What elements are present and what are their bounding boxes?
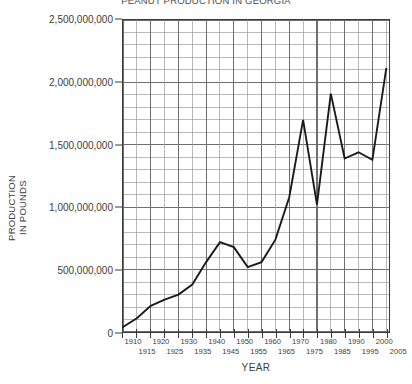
x-tick-label-2: 1920 (152, 337, 169, 346)
x-tick-label-15: 1985 (334, 347, 351, 356)
x-tick-label-7: 1945 (222, 347, 239, 356)
x-tick-mark-14 (317, 329, 318, 338)
x-tick-mark-8 (234, 329, 235, 338)
x-axis-title: YEAR (122, 362, 390, 373)
chart-title: PEANUT PRODUCTION IN GEORGIA (0, 0, 412, 6)
x-tick-label-17: 1995 (362, 347, 379, 356)
y-tick-mark-2 (115, 207, 122, 208)
y-tick-label-4: 2,000,000,000 (49, 76, 113, 87)
y-tick-label-0: 0 (107, 328, 113, 339)
x-tick-label-1: 1915 (139, 347, 156, 356)
x-tick-label-14: 1980 (320, 337, 337, 346)
x-tick-label-12: 1970 (292, 337, 309, 346)
x-tick-mark-1 (136, 329, 137, 338)
x-tick-label-19: 2005 (390, 347, 407, 356)
x-tick-label-18: 2000 (376, 337, 393, 346)
x-tick-label-13: 1975 (306, 347, 323, 356)
x-tick-label-16: 1990 (348, 337, 365, 346)
x-tick-mark-10 (262, 329, 263, 338)
y-tick-label-5: 2,500,000,000 (49, 14, 113, 25)
x-tick-mark-13 (303, 329, 304, 338)
y-tick-mark-1 (115, 270, 122, 271)
data-series-line (123, 20, 389, 332)
y-tick-mark-5 (115, 19, 122, 20)
x-tick-label-8: 1950 (236, 337, 253, 346)
x-tick-label-10: 1960 (264, 337, 281, 346)
x-tick-label-0: 1910 (125, 337, 142, 346)
y-axis-title: PRODUCTION IN POUNDS (6, 175, 32, 241)
y-axis-title-line2: IN POUNDS (17, 175, 28, 241)
x-tick-mark-7 (220, 329, 221, 338)
x-tick-mark-5 (192, 329, 193, 338)
x-tick-mark-6 (206, 329, 207, 338)
x-tick-mark-3 (164, 329, 165, 338)
x-tick-mark-17 (359, 329, 360, 338)
x-tick-label-9: 1955 (250, 347, 267, 356)
x-tick-label-6: 1940 (208, 337, 225, 346)
y-tick-mark-0 (115, 333, 122, 334)
plot-area (122, 19, 390, 333)
x-tick-mark-11 (276, 329, 277, 338)
x-tick-label-4: 1930 (180, 337, 197, 346)
x-tick-mark-19 (387, 329, 388, 338)
chart-container: PEANUT PRODUCTION IN GEORGIA PRODUCTION … (0, 0, 412, 384)
x-tick-mark-2 (150, 329, 151, 338)
y-axis: PRODUCTION IN POUNDS 0500,000,0001,000,0… (0, 0, 122, 384)
x-tick-mark-4 (178, 329, 179, 338)
y-tick-mark-3 (115, 144, 122, 145)
x-tick-label-3: 1925 (166, 347, 183, 356)
y-tick-label-1: 500,000,000 (57, 265, 113, 276)
y-tick-mark-4 (115, 81, 122, 82)
y-tick-label-2: 1,000,000,000 (49, 202, 113, 213)
x-tick-mark-16 (345, 329, 346, 338)
x-tick-label-11: 1965 (278, 347, 295, 356)
y-tick-label-3: 1,500,000,000 (49, 139, 113, 150)
x-tick-mark-15 (331, 329, 332, 338)
x-tick-mark-9 (248, 329, 249, 338)
x-tick-mark-12 (290, 329, 291, 338)
x-tick-mark-0 (122, 329, 123, 338)
x-tick-label-5: 1935 (194, 347, 211, 356)
x-tick-mark-18 (373, 329, 374, 338)
y-axis-title-line1: PRODUCTION (6, 175, 17, 241)
